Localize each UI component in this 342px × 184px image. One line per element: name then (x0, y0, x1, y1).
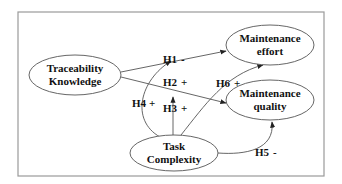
label-h2-sign: + (181, 76, 187, 88)
label-h5: H5 - (255, 146, 277, 158)
node-quality-line2: quality (253, 100, 287, 112)
label-h6: H6 + (216, 77, 240, 89)
label-h1-sign: - (181, 53, 185, 65)
research-model-diagram: Traceability Knowledge Maintenance effor… (0, 0, 342, 184)
label-h4-sign: + (149, 97, 155, 109)
node-quality-line1: Maintenance (239, 87, 300, 99)
node-task-complexity: Task Complexity (130, 135, 218, 171)
label-h1-id: H1 (163, 53, 177, 65)
label-h5-sign: - (273, 146, 277, 158)
node-complexity-line1: Task (163, 140, 186, 152)
label-h6-sign: + (234, 77, 240, 89)
label-h4-id: H4 (132, 97, 147, 109)
label-h6-id: H6 (216, 77, 231, 89)
node-complexity-line2: Complexity (147, 153, 202, 165)
node-traceability-line1: Traceability (47, 62, 104, 74)
node-traceability-knowledge: Traceability Knowledge (29, 55, 121, 95)
node-effort-line1: Maintenance (239, 32, 300, 44)
label-h1: H1 - (163, 53, 185, 65)
node-maintenance-effort: Maintenance effort (226, 25, 314, 65)
label-h2-id: H2 (163, 76, 178, 88)
label-h3: H3 + (163, 102, 187, 114)
label-h3-id: H3 (163, 102, 178, 114)
label-h5-id: H5 (255, 146, 270, 158)
node-traceability-line2: Knowledge (49, 75, 102, 87)
label-h3-sign: + (181, 102, 187, 114)
label-h2: H2 + (163, 76, 187, 88)
label-h4: H4 + (132, 97, 155, 109)
node-effort-line2: effort (257, 45, 284, 57)
